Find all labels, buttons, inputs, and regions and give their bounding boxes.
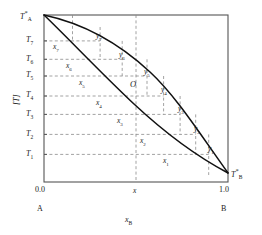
point-label-O: O [130,80,136,89]
phase-diagram-figure: T*A T7 T6 T5 T4 T3 T2 T1 [T] T*B 0.0 x 1… [0,0,262,235]
point-label-x3: x3 [117,117,123,127]
y-tick-label-TA: T*A [20,10,32,23]
point-label-x1: x1 [163,157,169,167]
y-tick-label-T6: T6 [26,55,33,65]
y-tick-label-T1: T1 [26,150,33,160]
point-label-y7: y7 [96,32,102,42]
x-tick-label-0: 0.0 [35,186,45,194]
y-tick-label-T7: T7 [26,36,33,46]
x-endpoint-label-A: A [37,205,43,213]
y-tick-label-T4: T4 [26,91,33,101]
y-tick-label-T3: T3 [26,110,33,120]
x-tick-label-x: x [133,187,136,195]
point-label-y4: y4 [161,86,167,96]
staircase-verticals-group [73,15,209,182]
point-label-y5: y5 [144,68,150,78]
phase-diagram-canvas [0,0,262,235]
x-axis-title: xB [125,216,132,226]
y-axis-title: [T] [12,94,21,105]
point-label-x6: x6 [66,62,72,72]
x-tick-label-1: 1.0 [219,186,229,194]
y-tick-label-T5: T5 [26,71,33,81]
point-label-x5: x5 [79,79,85,89]
pure-b-label: T*B [231,168,242,181]
point-label-y2: y2 [194,125,200,135]
point-label-y3: y3 [178,105,184,115]
point-label-x7: x7 [53,43,59,53]
x-endpoint-label-B: B [221,205,226,213]
point-label-y1: y1 [208,145,214,155]
point-label-x2: x2 [140,137,146,147]
point-label-x4: x4 [96,99,102,109]
y-tick-label-T2: T2 [26,130,33,140]
point-label-y6: y6 [119,51,125,61]
